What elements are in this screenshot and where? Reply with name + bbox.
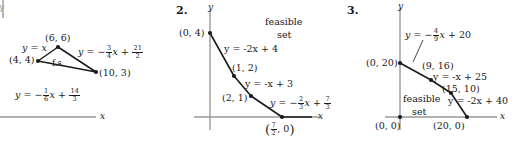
var-x: x [440,29,445,40]
figure-2-vertex-dot-0-4 [208,31,212,35]
var-x: x [113,46,118,57]
figure-3-vertex-dot-0-20 [398,61,402,65]
figure-2-equation-2: y = -x + 3 [245,79,293,89]
figure-3-equation-1-intercept: 20 [459,29,471,40]
var-y: y [78,46,83,57]
minus-sign: − [289,97,297,108]
figure-2-equation-3: y = −23x + 73 [270,96,331,111]
fraction-one-sixth: 16 [43,88,49,103]
figure-1-graphics [0,0,172,141]
figure-1-equation-bottom: y = −16x + 143 [15,88,80,103]
figure-2-x-axis-label: x [318,111,323,121]
figure-1-equation-left: y = x [22,43,47,53]
figure-2-vertex-label-1-2: (1, 2) [232,63,258,73]
var-y: y [22,42,27,53]
var-x: x [305,97,310,108]
figure-1-vertex-label-10-3: (10, 3) [99,68,131,78]
figure-1-vertex-dot-10-3 [94,70,98,74]
figure-2-vertex-label-2-1: (2, 1) [222,93,248,103]
minus-sign: − [424,29,432,40]
close-paren: ) [289,122,294,137]
figure-3-equation-3: y = -2x + 40 [448,96,508,106]
figure-2-vertex-dot-1-2 [232,74,236,78]
figure-2-equation-1: y = -2x + 4 [224,44,278,54]
fraction-seven-thirds: 73 [324,96,330,111]
comma: , [277,123,280,134]
figure-3-region-label-line1: feasible [403,94,440,104]
equals-sign: = [30,42,38,53]
figure-3-equation-2: y = -x + 25 [433,72,487,82]
fraction-twentyone-halves: 212 [132,45,142,60]
equals-sign: = [86,46,94,57]
figure-1-feasible-triangle: y x (6, 6) (4, 4) (10, 3) f.s. y = x y =… [0,0,172,141]
fraction-two-thirds: 23 [298,96,304,111]
minus-sign: − [97,46,105,57]
var-x: x [41,42,46,53]
figure-2-vertex-label-0-4: (0, 4) [179,28,205,38]
figure-1-region-label: f.s. [52,59,65,68]
figure-3-y-axis-label: y [398,1,403,11]
figure-3-vertex-label-20-0: (20, 0) [433,121,465,131]
figure-2-y-axis-label: y [208,2,213,12]
figure-1-vertex-dot-6-6 [56,45,60,49]
figure-2-vertex-dot-2-1 [249,94,253,98]
figure-3-vertex-label-0-20: (0, 20) [366,58,398,68]
fraction-seven-halves: 72 [271,122,277,137]
figure-2-region-label-line1: feasible [265,17,302,27]
figure-3-vertex-label-15-10: (15, 10) [442,84,480,94]
figure-1-vertex-label-6-6: (6, 6) [45,33,71,43]
figure-3-region-label-line2: set [412,107,426,117]
fraction-four-ninths: 49 [433,28,439,43]
minus-sign: − [34,89,42,100]
figure-1-vertex-dot-4-4 [36,59,40,63]
equals-sign: = [413,29,421,40]
open-paren: ( [265,122,270,137]
figure-3-vertex-dot-0-0 [398,115,402,119]
figure-1-y-axis-label: y [0,2,4,12]
fraction-fourteen-thirds: 143 [69,88,79,103]
equals-sign: = [278,97,286,108]
figure-3-equation-leader-line [413,40,423,62]
figure-2-region-label-line2: set [277,30,291,40]
figure-3-vertex-label-0-0: (0, 0) [375,121,401,131]
figure-2-vertex-dot-7-2-0 [280,115,284,119]
figure-2-feasible-set: 2. y x feasible set (0, 4) (1, 2) (2, 1)… [172,0,345,141]
plus-sign: + [58,89,66,100]
figure-3-vertex-dot-20-0 [465,115,469,119]
plus-sign: + [313,97,321,108]
var-y: y [15,89,20,100]
plus-sign: + [448,29,456,40]
figure-3-x-axis-label: x [500,111,505,121]
equals-sign: = [23,89,31,100]
plus-sign: + [121,46,129,57]
figure-1-equation-top: y = −34x + 212 [78,45,143,60]
figure-1-x-axis-label: x [100,111,105,121]
var-x: x [50,89,55,100]
figure-3-vertex-label-9-16: (9, 16) [422,61,454,71]
figure-3-feasible-set: 3. y x (0, 20) (9, 16) (15, 10) (20, 0) … [345,0,515,141]
var-y: y [405,29,410,40]
var-y: y [270,97,275,108]
figure-2-vertex-label-7-2-0: (72, 0) [265,122,294,137]
fraction-three-fourths: 34 [106,45,112,60]
figure-1-vertex-label-4-4: (4, 4) [9,55,35,65]
figure-3-equation-1: y = −49x + 20 [405,28,471,43]
